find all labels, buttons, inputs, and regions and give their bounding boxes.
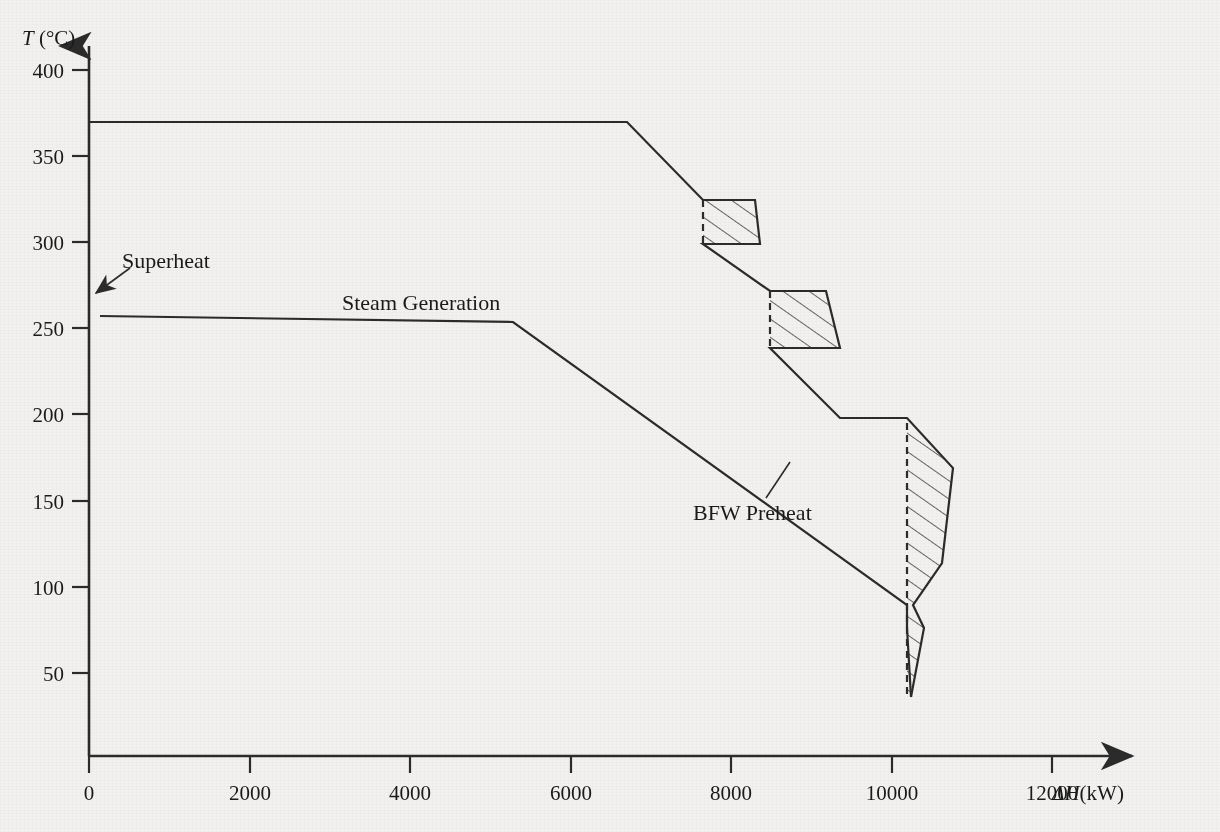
- composite-curve-chart: 400 350 300 250 200 150 100 50 0 2000 40…: [0, 0, 1220, 832]
- x-axis-title: ΔH(kW): [1051, 781, 1124, 805]
- y-tick-label-400: 400: [33, 59, 65, 83]
- x-tick-label-6000: 6000: [550, 781, 592, 805]
- y-axis-title: T (°C): [22, 26, 75, 50]
- bfw-preheat-recovery-zone: [907, 423, 953, 697]
- x-tick-label-2000: 2000: [229, 781, 271, 805]
- chart-canvas: 400 350 300 250 200 150 100 50 0 2000 40…: [0, 0, 1220, 832]
- y-tick-label-50: 50: [43, 662, 64, 686]
- hatched-regions-group: [703, 200, 953, 697]
- x-axis-title-unit: (kW): [1080, 781, 1124, 805]
- axes-group: [89, 46, 1132, 756]
- x-tick-label-10000: 10000: [866, 781, 919, 805]
- x-tick-label-0: 0: [84, 781, 95, 805]
- superheat-recovery-zone: [703, 200, 760, 244]
- y-tick-label-300: 300: [33, 231, 65, 255]
- y-tick-label-200: 200: [33, 403, 65, 427]
- hot-composite-curve: [89, 122, 953, 697]
- x-axis-title-symbol: ΔH: [1051, 781, 1081, 805]
- steam-generation-recovery-zone: [770, 291, 840, 348]
- y-tick-label-350: 350: [33, 145, 65, 169]
- x-tick-label-8000: 8000: [710, 781, 752, 805]
- y-axis-title-unit: (°C): [34, 26, 76, 50]
- y-tick-group: [72, 70, 89, 673]
- x-tick-group: [89, 756, 1052, 773]
- y-tick-label-250: 250: [33, 317, 65, 341]
- superheat-annotation: Superheat: [122, 248, 210, 273]
- pinch-divider-group: [703, 200, 907, 697]
- steam-generation-annotation: Steam Generation: [342, 290, 500, 315]
- y-tick-label-150: 150: [33, 490, 65, 514]
- bfw-preheat-leader-line: [766, 462, 790, 498]
- bfw-preheat-annotation: BFW Preheat: [693, 500, 812, 525]
- x-tick-label-4000: 4000: [389, 781, 431, 805]
- y-tick-label-100: 100: [33, 576, 65, 600]
